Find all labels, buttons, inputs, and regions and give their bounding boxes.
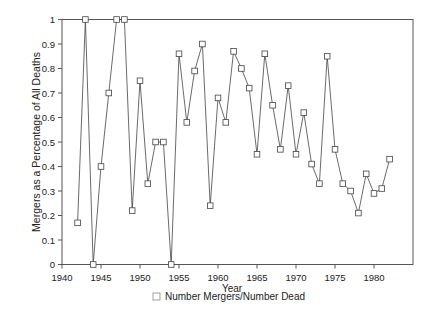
- data-point-square-icon: [254, 151, 260, 157]
- data-point-square-icon: [340, 181, 346, 187]
- data-point-square-icon: [75, 220, 81, 226]
- axes: 00.10.20.30.40.50.60.70.80.9119401945195…: [42, 14, 413, 283]
- data-point-square-icon: [270, 102, 276, 108]
- x-tick-label: 1975: [324, 272, 345, 283]
- data-point-square-icon: [90, 262, 96, 268]
- data-point-square-icon: [207, 203, 213, 209]
- y-tick-label: 1: [50, 14, 55, 25]
- data-point-square-icon: [145, 181, 151, 187]
- legend: Number Mergers/Number Dead: [153, 291, 305, 302]
- data-point-square-icon: [356, 210, 362, 216]
- y-axis-label: Mergers as a Percentage of All Deaths: [30, 52, 42, 232]
- x-tick-label: 1950: [129, 272, 150, 283]
- chart: 00.10.20.30.40.50.60.70.80.9119401945195…: [0, 0, 430, 318]
- data-point-square-icon: [278, 147, 284, 153]
- data-point-square-icon: [348, 188, 354, 194]
- y-tick-label: 0.6: [42, 112, 55, 123]
- data-point-square-icon: [246, 85, 252, 91]
- data-point-square-icon: [239, 66, 245, 72]
- data-point-square-icon: [332, 147, 338, 153]
- data-point-square-icon: [293, 151, 299, 157]
- data-point-square-icon: [122, 17, 128, 23]
- data-point-square-icon: [200, 41, 206, 47]
- plot-area: [75, 17, 393, 268]
- data-point-square-icon: [114, 17, 120, 23]
- y-tick-label: 0.3: [42, 186, 55, 197]
- x-tick-label: 1945: [90, 272, 111, 283]
- series-line: [78, 20, 390, 265]
- y-tick-label: 0: [50, 259, 55, 270]
- data-point-square-icon: [215, 95, 221, 101]
- y-tick-label: 0.2: [42, 210, 55, 221]
- data-point-square-icon: [379, 186, 385, 192]
- data-point-square-icon: [387, 156, 393, 162]
- data-point-square-icon: [161, 139, 167, 145]
- x-tick-label: 1970: [285, 272, 306, 283]
- data-point-square-icon: [301, 110, 307, 116]
- x-tick-label: 1960: [207, 272, 228, 283]
- line-chart: 00.10.20.30.40.50.60.70.80.9119401945195…: [0, 0, 430, 318]
- y-tick-label: 0.8: [42, 63, 55, 74]
- y-tick-label: 0.1: [42, 235, 55, 246]
- data-point-square-icon: [317, 181, 323, 187]
- data-point-square-icon: [371, 191, 377, 197]
- data-point-square-icon: [129, 208, 135, 214]
- plot-frame: [62, 20, 413, 265]
- data-point-square-icon: [231, 49, 237, 55]
- data-point-square-icon: [223, 120, 229, 126]
- data-point-square-icon: [363, 171, 369, 177]
- data-point-square-icon: [176, 51, 182, 57]
- x-tick-label: 1980: [363, 272, 384, 283]
- data-point-square-icon: [192, 68, 198, 74]
- data-point-square-icon: [262, 51, 268, 57]
- data-point-square-icon: [153, 139, 159, 145]
- legend-marker-square-icon: [153, 293, 160, 300]
- data-point-square-icon: [137, 78, 143, 84]
- y-tick-label: 0.9: [42, 39, 55, 50]
- data-point-square-icon: [324, 53, 330, 59]
- data-point-square-icon: [83, 17, 89, 23]
- x-tick-label: 1940: [51, 272, 72, 283]
- data-point-square-icon: [168, 262, 174, 268]
- y-tick-label: 0.7: [42, 88, 55, 99]
- data-point-square-icon: [309, 161, 315, 167]
- y-tick-label: 0.4: [42, 161, 55, 172]
- x-tick-label: 1965: [246, 272, 267, 283]
- data-point-square-icon: [106, 90, 112, 96]
- data-point-square-icon: [285, 83, 291, 89]
- data-point-square-icon: [184, 120, 190, 126]
- data-point-square-icon: [98, 164, 104, 170]
- legend-label: Number Mergers/Number Dead: [165, 291, 305, 302]
- y-tick-label: 0.5: [42, 137, 55, 148]
- x-tick-label: 1955: [168, 272, 189, 283]
